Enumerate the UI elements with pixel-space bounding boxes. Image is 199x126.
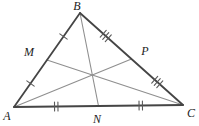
point-label-M: M (23, 45, 35, 59)
side-AB (14, 13, 80, 107)
point-label-C: C (187, 106, 196, 120)
side-AB-half-MB-tick-1 (60, 34, 67, 39)
point-label-A: A (2, 109, 11, 123)
side-AC (14, 105, 183, 107)
side-AB-half-AM-tick-1 (27, 81, 34, 86)
point-label-N: N (92, 112, 102, 126)
median-CM (47, 60, 183, 105)
triangle-median-svg: ABCMPN (0, 0, 199, 126)
triangle-median-diagram: ABCMPN (0, 0, 199, 126)
point-label-B: B (73, 0, 81, 13)
point-label-P: P (140, 44, 149, 58)
